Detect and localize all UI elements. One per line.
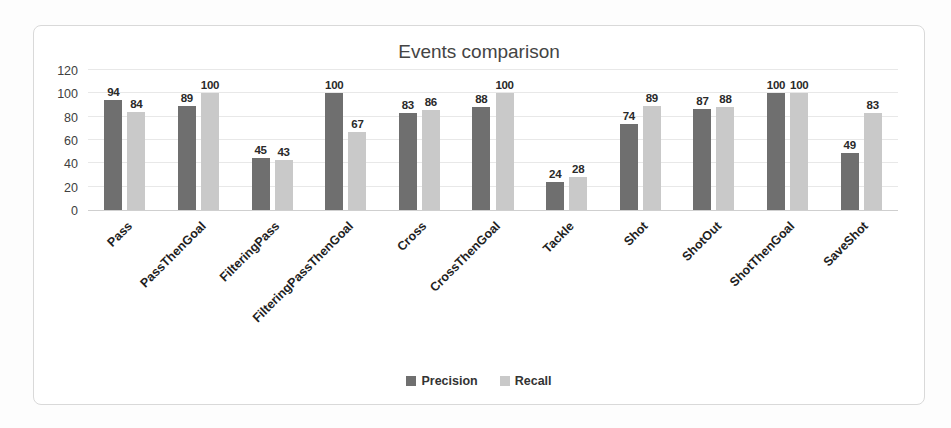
x-label-cell: Shot [603, 211, 677, 331]
page: Events comparison 020406080100120 948489… [0, 0, 951, 428]
x-axis-label-ShotOut: ShotOut [679, 219, 724, 264]
y-axis-tick-60: 60 [64, 134, 78, 148]
plot-wrap: 9484891004543100678386881002428748987881… [88, 71, 898, 331]
bar-value-label: 89 [646, 92, 658, 104]
x-label-cell: Tackle [530, 211, 604, 331]
bar-value-label: 100 [495, 79, 513, 91]
bar-value-label: 49 [844, 139, 856, 151]
bar-group-SaveShot: 4983 [824, 71, 898, 210]
y-axis-tick-40: 40 [64, 157, 78, 171]
bar-value-label: 100 [201, 79, 219, 91]
bar-recall-Shot [643, 106, 661, 210]
bar-precision-FilteringPassThenGoal [325, 93, 343, 210]
chart-title: Events comparison [34, 41, 924, 63]
x-label-cell: ShotThenGoal [751, 211, 825, 331]
bar-recall-ShotOut [716, 107, 734, 210]
y-axis-tick-120: 120 [57, 64, 78, 78]
bar-value-label: 87 [696, 95, 708, 107]
bar-recall-Cross [422, 110, 440, 210]
bar-group-CrossThenGoal: 88100 [456, 71, 530, 210]
bar-value-label: 74 [623, 110, 635, 122]
bar-group-PassThenGoal: 89100 [162, 71, 236, 210]
bar-unit-recall-Shot: 89 [643, 92, 661, 210]
bar-unit-recall-FilteringPass: 43 [275, 146, 293, 210]
x-axis-label-Cross: Cross [394, 219, 429, 254]
y-axis-tick-20: 20 [64, 181, 78, 195]
bar-precision-Pass [104, 100, 122, 210]
bar-value-label: 100 [767, 79, 785, 91]
bar-value-label: 24 [549, 168, 561, 180]
x-label-cell: FilteringPassThenGoal [309, 211, 383, 331]
bar-unit-precision-FilteringPass: 45 [252, 144, 270, 211]
bar-precision-Cross [399, 113, 417, 210]
y-axis-tick-80: 80 [64, 111, 78, 125]
bar-group-Tackle: 2428 [530, 71, 604, 210]
chart-panel: Events comparison 020406080100120 948489… [33, 25, 925, 405]
legend: PrecisionRecall [34, 374, 924, 388]
bar-group-FilteringPassThenGoal: 10067 [309, 71, 383, 210]
bar-recall-PassThenGoal [201, 93, 219, 210]
bar-group-Shot: 7489 [603, 71, 677, 210]
bar-unit-recall-Pass: 84 [127, 98, 145, 210]
bar-unit-precision-SaveShot: 49 [841, 139, 859, 210]
legend-swatch-recall [500, 376, 510, 386]
bar-unit-precision-CrossThenGoal: 88 [472, 93, 490, 210]
bar-value-label: 84 [130, 98, 142, 110]
x-axis-labels: PassPassThenGoalFilteringPassFilteringPa… [88, 211, 898, 331]
bar-recall-FilteringPass [275, 160, 293, 210]
chart-body: 020406080100120 948489100454310067838688… [46, 71, 898, 331]
bar-value-label: 89 [181, 92, 193, 104]
bar-precision-Shot [620, 124, 638, 210]
bar-recall-ShotThenGoal [790, 93, 808, 210]
y-axis: 020406080100120 [46, 71, 88, 211]
bar-precision-CrossThenGoal [472, 107, 490, 210]
x-axis-label-Pass: Pass [104, 219, 135, 250]
bar-value-label: 28 [572, 163, 584, 175]
bar-group-Cross: 8386 [383, 71, 457, 210]
bar-recall-Tackle [569, 177, 587, 210]
legend-item-precision: Precision [406, 374, 477, 388]
bar-recall-FilteringPassThenGoal [348, 132, 366, 210]
bar-value-label: 100 [790, 79, 808, 91]
bar-precision-ShotThenGoal [767, 93, 785, 210]
bar-value-label: 43 [277, 146, 289, 158]
bar-value-label: 83 [402, 99, 414, 111]
bar-value-label: 45 [254, 144, 266, 156]
x-axis-label-Tackle: Tackle [540, 219, 577, 256]
y-axis-tick-100: 100 [57, 87, 78, 101]
bar-value-label: 100 [325, 79, 343, 91]
bar-value-label: 94 [107, 86, 119, 98]
bar-value-label: 86 [425, 96, 437, 108]
bar-value-label: 67 [351, 118, 363, 130]
bar-value-label: 88 [475, 93, 487, 105]
bar-unit-precision-ShotThenGoal: 100 [767, 79, 785, 210]
bar-recall-SaveShot [864, 113, 882, 210]
bar-unit-precision-ShotOut: 87 [693, 95, 711, 211]
x-label-cell: SaveShot [824, 211, 898, 331]
plot-area: 9484891004543100678386881002428748987881… [88, 71, 898, 211]
bar-group-ShotOut: 8788 [677, 71, 751, 210]
bar-unit-recall-ShotOut: 88 [716, 93, 734, 210]
bar-precision-SaveShot [841, 153, 859, 210]
x-axis-label-SaveShot: SaveShot [821, 219, 871, 269]
gridline-120 [88, 69, 898, 70]
bar-unit-precision-Cross: 83 [399, 99, 417, 210]
bar-unit-recall-FilteringPassThenGoal: 67 [348, 118, 366, 210]
bar-value-label: 83 [867, 99, 879, 111]
bar-unit-precision-Tackle: 24 [546, 168, 564, 210]
bar-recall-CrossThenGoal [496, 93, 514, 210]
bar-group-ShotThenGoal: 100100 [751, 71, 825, 210]
x-label-cell: CrossThenGoal [456, 211, 530, 331]
legend-label: Recall [515, 374, 552, 388]
bar-unit-recall-SaveShot: 83 [864, 99, 882, 210]
bar-unit-recall-PassThenGoal: 100 [201, 79, 219, 210]
bar-precision-PassThenGoal [178, 106, 196, 210]
bar-unit-precision-PassThenGoal: 89 [178, 92, 196, 210]
y-axis-tick-0: 0 [71, 204, 78, 218]
legend-swatch-precision [406, 376, 416, 386]
bar-unit-recall-Cross: 86 [422, 96, 440, 210]
x-axis-label-Shot: Shot [621, 219, 651, 249]
legend-label: Precision [421, 374, 477, 388]
bar-precision-ShotOut [693, 109, 711, 211]
bar-unit-recall-CrossThenGoal: 100 [495, 79, 513, 210]
